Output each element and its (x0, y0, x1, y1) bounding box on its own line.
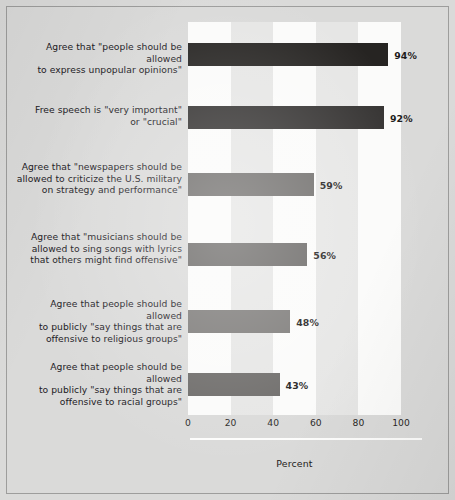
bar-value-label: 43% (286, 380, 309, 391)
category-label-line: on strategy and performance" (14, 184, 182, 196)
category-label-line: offensive to racial groups" (14, 396, 182, 408)
bar-value-label: 94% (394, 50, 417, 61)
x-axis-tick-80: 80 (353, 417, 365, 428)
page: Agree that "people should be allowedto e… (0, 0, 455, 500)
category-label: Agree that "people should be allowedto e… (14, 41, 182, 76)
category-label-line: offensive to religious groups" (14, 333, 182, 345)
x-axis-tick-0: 0 (185, 417, 191, 428)
bar-value-label: 56% (313, 250, 336, 261)
category-label-line: to express unpopular opinions" (14, 64, 182, 76)
x-axis: 020406080100 (188, 417, 401, 433)
category-label-line: Agree that "musicians should be (14, 231, 182, 243)
category-label: Agree that "musicians should beallowed t… (14, 231, 182, 266)
bar (188, 106, 384, 129)
bar-value-label: 92% (390, 113, 413, 124)
category-label-line: to publicly "say things that are (14, 321, 182, 333)
category-label-line: Free speech is "very important" (14, 104, 182, 116)
category-label: Agree that people should be allowedto pu… (14, 361, 182, 407)
category-label: Agree that "newspapers should beallowed … (14, 161, 182, 196)
x-axis-tick-100: 100 (392, 417, 410, 428)
category-label-line: Agree that people should be allowed (14, 298, 182, 321)
bar (188, 310, 290, 333)
bar-chart: Agree that "people should be allowedto e… (0, 0, 455, 500)
bar-value-label: 59% (320, 180, 343, 191)
bar-row: Agree that "musicians should beallowed t… (14, 235, 444, 297)
category-label: Free speech is "very important"or "cruci… (14, 104, 182, 127)
category-label-line: Agree that people should be allowed (14, 361, 182, 384)
category-label: Agree that people should be allowedto pu… (14, 298, 182, 344)
bar-row: Agree that "people should be allowedto e… (14, 40, 444, 102)
category-label-line: Agree that "people should be allowed (14, 41, 182, 64)
bar-row: Agree that "newspapers should beallowed … (14, 165, 444, 227)
category-label-line: allowed to criticize the U.S. military (14, 173, 182, 185)
x-axis-tick-20: 20 (225, 417, 237, 428)
bar (188, 173, 314, 196)
category-label-line: or "crucial" (14, 116, 182, 128)
x-axis-title: Percent (188, 458, 401, 469)
category-label-line: allowed to sing songs with lyrics (14, 243, 182, 255)
bar-value-label: 48% (296, 317, 319, 328)
category-label-line: Agree that "newspapers should be (14, 161, 182, 173)
bar (188, 43, 388, 66)
category-label-line: that others might find offensive" (14, 254, 182, 266)
x-axis-tick-40: 40 (267, 417, 279, 428)
axis-rule (190, 438, 422, 440)
x-axis-tick-60: 60 (310, 417, 322, 428)
bar (188, 243, 307, 266)
category-label-line: to publicly "say things that are (14, 384, 182, 396)
bar (188, 373, 280, 396)
bar-row: Free speech is "very important"or "cruci… (14, 103, 444, 165)
bar-row: Agree that people should be allowedto pu… (14, 302, 444, 364)
